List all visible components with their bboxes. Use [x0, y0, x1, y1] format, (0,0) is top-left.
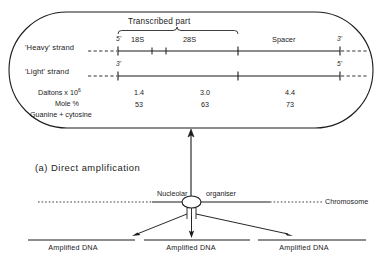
transcribed-part-label: Transcribed part — [128, 18, 191, 26]
amplified-dna-label-2: Amplified DNA — [145, 243, 237, 252]
amplified-dna-label-3: Amplified DNA — [258, 243, 350, 252]
branch-arrow-right-head — [285, 233, 294, 237]
organiser-label: organiser — [206, 190, 236, 197]
guanine-cytosine-label: Guanine + cytosine — [30, 111, 92, 118]
branch-arrow-right-shaft — [196, 214, 288, 234]
branch-arrow-left-shaft — [137, 214, 187, 234]
transcribed-bracket — [118, 27, 238, 34]
light-strand-5prime-label: 5' — [337, 61, 342, 68]
daltons-value-1: 1.4 — [124, 88, 154, 97]
daltons-value-2: 3.0 — [190, 88, 220, 97]
chromosome-label: Chromosome — [325, 198, 368, 205]
figure-direct-amplification: Transcribed part 'Heavy' strand 'Light' … — [0, 0, 382, 267]
daltons-exponent: 6 — [78, 87, 81, 93]
light-strand-label: 'Light' strand — [25, 68, 69, 76]
mole-value-1: 53 — [124, 100, 154, 109]
region-label-28s: 28S — [183, 36, 196, 43]
mole-value-3: 73 — [275, 100, 305, 109]
nucleolar-label: Nucleolar — [157, 190, 187, 197]
mole-row-label: Mole % — [55, 100, 79, 107]
region-label-18s: 18S — [131, 36, 144, 43]
heavy-strand-label: 'Heavy' strand — [25, 44, 74, 52]
amplified-dna-label-1: Amplified DNA — [27, 243, 119, 252]
heavy-strand-3prime-label: 3' — [337, 36, 342, 43]
mole-value-2: 63 — [190, 100, 220, 109]
daltons-value-3: 4.4 — [275, 88, 305, 97]
figure-caption: (a) Direct amplification — [35, 163, 140, 172]
heavy-strand-5prime-label: 5' — [116, 36, 121, 43]
region-label-spacer: Spacer — [272, 36, 295, 43]
daltons-row-label: Daltons x 106 — [38, 88, 81, 97]
light-strand-3prime-label: 3' — [116, 61, 121, 68]
daltons-row-text: Daltons x 10 — [38, 88, 78, 97]
